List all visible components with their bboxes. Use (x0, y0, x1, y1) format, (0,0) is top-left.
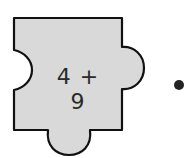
match-dot[interactable] (174, 80, 184, 90)
expression-label: 4 + 9 (48, 64, 108, 114)
